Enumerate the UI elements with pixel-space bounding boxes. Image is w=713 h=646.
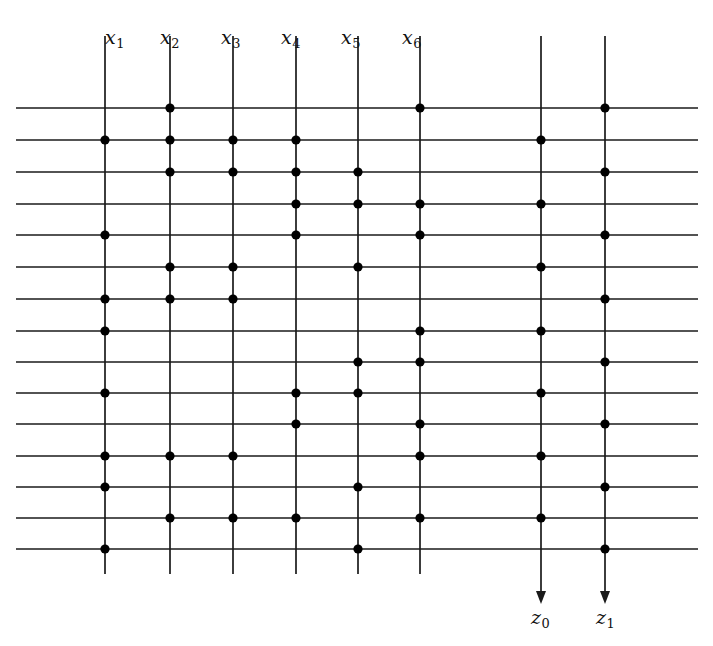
dot-x4-row5	[291, 230, 300, 239]
dot-x6-row14	[415, 513, 424, 522]
dot-z0-row8	[536, 326, 545, 335]
dot-x1-row15	[100, 544, 109, 553]
input-label-x6: x6	[402, 26, 421, 51]
dot-x1-row12	[100, 451, 109, 460]
dot-x2-row14	[165, 513, 174, 522]
dot-x5-row13	[353, 482, 362, 491]
dot-x1-row10	[100, 388, 109, 397]
dot-x6-row8	[415, 326, 424, 335]
dot-x2-row1	[165, 103, 174, 112]
dot-x3-row12	[228, 451, 237, 460]
input-label-x3: x3	[221, 26, 240, 51]
input-label-x6-base: x	[402, 26, 413, 48]
dot-z1-row11	[600, 419, 609, 428]
dot-x1-row8	[100, 326, 109, 335]
dot-z0-row14	[536, 513, 545, 522]
input-label-x3-base: x	[221, 26, 232, 48]
input-label-x4-base: x	[281, 26, 292, 48]
dot-x2-row12	[165, 451, 174, 460]
dot-z0-row10	[536, 388, 545, 397]
output-label-z1: z1	[596, 606, 615, 631]
input-label-x3-subscript: 3	[232, 36, 241, 51]
dot-x3-row14	[228, 513, 237, 522]
sorting-network-figure: x1x2x3x4x5x6 z0z1	[0, 0, 713, 646]
output-arrows	[536, 574, 610, 604]
dot-x1-row5	[100, 230, 109, 239]
input-label-x2-base: x	[160, 26, 171, 48]
dot-x6-row9	[415, 357, 424, 366]
dot-z1-row7	[600, 294, 609, 303]
input-label-x2: x2	[160, 26, 179, 51]
dot-x5-row15	[353, 544, 362, 553]
connection-dots	[100, 103, 609, 553]
dot-x5-row6	[353, 262, 362, 271]
dot-x5-row10	[353, 388, 362, 397]
arrow-head-2	[600, 591, 610, 604]
dot-z1-row15	[600, 544, 609, 553]
output-label-z0-subscript: 0	[541, 616, 550, 631]
dot-z0-row6	[536, 262, 545, 271]
dot-x1-row2	[100, 135, 109, 144]
input-label-x4: x4	[281, 26, 300, 51]
dot-x5-row9	[353, 357, 362, 366]
dot-z0-row2	[536, 135, 545, 144]
arrow-head-1	[536, 591, 546, 604]
dot-x6-row11	[415, 419, 424, 428]
dot-x2-row7	[165, 294, 174, 303]
dot-x6-row4	[415, 199, 424, 208]
dot-x3-row7	[228, 294, 237, 303]
dot-z0-row4	[536, 199, 545, 208]
dot-x3-row6	[228, 262, 237, 271]
input-label-x1: x1	[105, 26, 124, 51]
output-label-z1-subscript: 1	[606, 616, 615, 631]
dot-x5-row4	[353, 199, 362, 208]
dot-x3-row2	[228, 135, 237, 144]
dot-x6-row5	[415, 230, 424, 239]
dot-x4-row14	[291, 513, 300, 522]
vertical-wires	[105, 36, 605, 574]
dot-x4-row10	[291, 388, 300, 397]
dot-x6-row1	[415, 103, 424, 112]
input-label-x6-subscript: 6	[413, 36, 422, 51]
input-label-x5-subscript: 5	[352, 36, 361, 51]
dot-z1-row1	[600, 103, 609, 112]
input-label-x1-subscript: 1	[116, 36, 125, 51]
dot-x2-row2	[165, 135, 174, 144]
dot-z0-row12	[536, 451, 545, 460]
dot-z1-row3	[600, 167, 609, 176]
dot-z1-row13	[600, 482, 609, 491]
input-label-x4-subscript: 4	[292, 36, 301, 51]
dot-x6-row12	[415, 451, 424, 460]
input-label-x2-subscript: 2	[171, 36, 180, 51]
dot-x4-row2	[291, 135, 300, 144]
dot-z1-row5	[600, 230, 609, 239]
dot-x5-row3	[353, 167, 362, 176]
dot-x1-row7	[100, 294, 109, 303]
dot-x4-row3	[291, 167, 300, 176]
output-label-z1-base: z	[596, 606, 606, 628]
output-label-z0-base: z	[531, 606, 541, 628]
dot-x4-row4	[291, 199, 300, 208]
dot-x2-row6	[165, 262, 174, 271]
dot-x3-row3	[228, 167, 237, 176]
input-label-x1-base: x	[105, 26, 116, 48]
dot-x4-row11	[291, 419, 300, 428]
dot-x1-row13	[100, 482, 109, 491]
output-label-z0: z0	[531, 606, 550, 631]
input-label-x5: x5	[341, 26, 360, 51]
network-canvas	[0, 0, 713, 646]
input-label-x5-base: x	[341, 26, 352, 48]
dot-x2-row3	[165, 167, 174, 176]
dot-z1-row9	[600, 357, 609, 366]
